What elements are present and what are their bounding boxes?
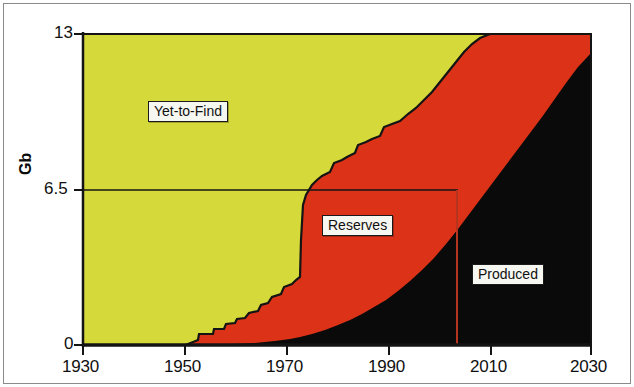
xtick-label-2030: 2030: [570, 357, 607, 377]
xtick-label-1990: 1990: [368, 357, 405, 377]
xtick-label-1950: 1950: [164, 357, 201, 377]
ytick-label-6p5: 6.5: [44, 179, 68, 199]
xtick-label-1930: 1930: [62, 357, 99, 377]
series-label-produced: Produced: [472, 264, 544, 285]
y-axis-title: Gb: [17, 153, 35, 175]
area-chart-plot: [0, 0, 634, 387]
series-label-yet-to-find: Yet-to-Find: [148, 101, 228, 122]
figure-root: Gb 13 6.5 0 1930 1950 1970 1990 2010 203…: [0, 0, 634, 387]
chart-area: Gb 13 6.5 0 1930 1950 1970 1990 2010 203…: [0, 0, 634, 387]
xtick-label-1970: 1970: [266, 357, 303, 377]
ytick-label-0: 0: [64, 334, 73, 354]
series-label-reserves: Reserves: [322, 215, 393, 236]
ytick-label-13: 13: [54, 23, 73, 43]
xtick-label-2010: 2010: [470, 357, 507, 377]
